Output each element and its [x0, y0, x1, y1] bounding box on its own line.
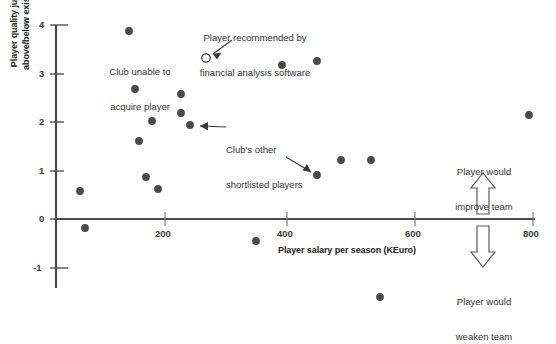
data-point [525, 111, 533, 119]
data-point [367, 156, 375, 164]
arrow-shortlisted-upper [200, 122, 226, 131]
y-tick-label-neg1: -1 [33, 262, 41, 274]
data-point [125, 27, 133, 35]
x-tick-label-800: 800 [523, 228, 539, 240]
data-point [76, 187, 84, 195]
annotation-improve-team: Player would improve team [438, 142, 530, 225]
y-tick-label-0: 0 [39, 213, 44, 225]
data-point [81, 224, 89, 232]
annotation-recommended-player: Player recommended by financial analysis… [175, 8, 335, 91]
y-axis-title-line2: above/below existing player per season [20, 0, 32, 72]
annotation-other-shortlisted-line1: Club's other [226, 144, 346, 156]
y-axis-title: Player quality judged by league points a… [8, 0, 42, 72]
data-point [135, 137, 143, 145]
annotation-other-shortlisted-line2: shortlisted players [226, 179, 346, 191]
x-tick-label-400: 400 [277, 228, 293, 240]
x-tick-label-600: 600 [405, 228, 421, 240]
annotation-weaken-team-line1: Player would [438, 296, 530, 308]
y-axis-title-line1: Player quality judged by league points [8, 0, 20, 72]
data-point [154, 185, 162, 193]
annotation-weaken-team: Player would weaken team [438, 272, 530, 344]
y-axis-ticks [50, 25, 68, 268]
x-axis-title: Player salary per season (KEuro) [278, 245, 416, 256]
down-arrow-weaken-team [471, 226, 495, 267]
annotation-improve-team-line1: Player would [438, 166, 530, 178]
annotation-club-unable-line2: acquire player [85, 101, 195, 113]
annotation-recommended-player-line2: financial analysis software [175, 67, 335, 79]
data-point [376, 293, 384, 301]
annotation-other-shortlisted: Club's other shortlisted players [226, 120, 346, 203]
data-point [252, 237, 260, 245]
annotation-weaken-team-line2: weaken team [438, 331, 530, 343]
x-tick-label-200: 200 [155, 228, 171, 240]
annotation-improve-team-line2: improve team [438, 201, 530, 213]
y-tick-label-1: 1 [39, 165, 44, 177]
annotation-recommended-player-line1: Player recommended by [175, 32, 335, 44]
y-tick-label-2: 2 [39, 116, 44, 128]
data-point [142, 173, 150, 181]
